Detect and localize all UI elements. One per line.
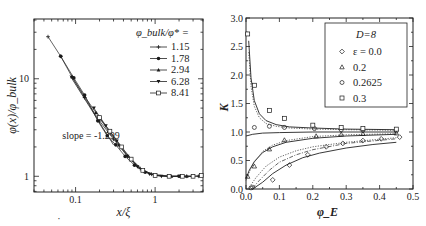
series-line xyxy=(94,108,193,176)
open-triangle-marker-icon xyxy=(314,134,318,138)
open-square-marker-icon xyxy=(394,127,398,131)
x-tick-label: 0.4 xyxy=(373,191,386,202)
legend-title: φ_bulk/φ* = xyxy=(136,27,189,38)
legend-label: 1.15 xyxy=(171,41,189,52)
open-square-marker-icon xyxy=(129,157,133,161)
legend-label: 0.3 xyxy=(353,93,366,104)
legend-label: 0.2625 xyxy=(353,77,382,88)
legend-label: 2.94 xyxy=(171,64,190,75)
x-tick-label: 0.3 xyxy=(340,191,353,202)
x-tick-label: 0.1 xyxy=(273,191,286,202)
legend-label: 1.78 xyxy=(171,53,189,64)
y-tick-label: 2.0 xyxy=(231,70,244,81)
fit-curve xyxy=(253,142,397,189)
open-square-marker-icon xyxy=(180,174,184,178)
y-axis-title: φ(x)/φ_bulk xyxy=(5,77,19,134)
y-axis-title: K xyxy=(217,103,231,113)
x-axis-title: φ_E xyxy=(317,205,338,219)
open-circle-marker-icon xyxy=(252,125,256,129)
y-tick-label: 0.5 xyxy=(231,155,244,166)
y-tick-label: 2.5 xyxy=(231,41,244,52)
y-tick-label: 3.0 xyxy=(231,13,244,24)
legend: D=8ε = 0.00.20.26250.3 xyxy=(325,23,407,107)
fit-curve xyxy=(249,138,396,188)
y-tick-label: 0.0 xyxy=(231,184,244,195)
open-square-marker-icon xyxy=(167,174,171,178)
filled-circle-marker-icon xyxy=(114,143,118,147)
open-square-marker-icon xyxy=(267,108,271,112)
fit-curve xyxy=(246,134,396,181)
open-square-marker-icon xyxy=(157,91,161,95)
right-chart-k-vs-phi-e: 0.00.10.20.30.40.50.00.51.01.52.02.53.0φ… xyxy=(217,13,419,220)
open-square-marker-icon xyxy=(246,32,250,36)
legend-label: ε = 0.0 xyxy=(353,46,382,57)
legend-label: 0.2 xyxy=(353,62,366,73)
open-square-marker-icon xyxy=(282,116,286,120)
plus-marker-icon xyxy=(157,45,161,49)
open-square-marker-icon xyxy=(141,168,145,172)
open-square-marker-icon xyxy=(120,145,124,149)
filled-circle-marker-icon xyxy=(105,134,109,138)
legend-title: D=8 xyxy=(355,29,377,40)
data-series-0.2625 xyxy=(249,124,398,190)
y-tick-label: 1.5 xyxy=(231,98,244,109)
data-series-8.41 xyxy=(98,116,204,179)
open-square-marker-icon xyxy=(311,123,315,127)
open-square-marker-icon xyxy=(98,116,102,120)
open-diamond-marker-icon xyxy=(270,177,275,182)
open-square-marker-icon xyxy=(339,125,343,129)
x-axis-title: x/ξ xyxy=(116,205,132,219)
figure: 0.11110x/ξφ(x)/φ_bulkslope = -1.299φ_bul… xyxy=(0,0,426,226)
legend: φ_bulk/φ* =1.151.782.946.288.41 xyxy=(136,27,190,98)
plus-marker-icon xyxy=(46,35,50,39)
left-chart-loglog-profile: 0.11110x/ξφ(x)/φ_bulkslope = -1.299φ_bul… xyxy=(5,19,203,224)
y-tick-label: 1 xyxy=(24,171,29,182)
filled-circle-marker-icon xyxy=(157,57,161,61)
open-square-marker-icon xyxy=(191,174,195,178)
x-tick-label: 0.5 xyxy=(407,191,420,202)
stray-mark: · xyxy=(57,213,60,224)
data-series-6.28 xyxy=(92,107,195,179)
y-tick-label: 10 xyxy=(19,73,29,84)
open-square-marker-icon xyxy=(252,83,256,87)
open-square-marker-icon xyxy=(340,96,344,100)
fit-curve xyxy=(246,134,396,178)
open-square-marker-icon xyxy=(108,129,112,133)
open-circle-marker-icon xyxy=(267,124,271,128)
x-tick-label: 0.1 xyxy=(69,194,82,205)
y-tick-label: 1.0 xyxy=(231,127,244,138)
legend-label: 6.28 xyxy=(171,76,189,87)
open-square-marker-icon xyxy=(153,174,157,178)
filled-circle-marker-icon xyxy=(59,54,63,58)
open-square-marker-icon xyxy=(361,127,365,131)
series-line xyxy=(100,118,202,177)
x-tick-label: 1 xyxy=(153,194,158,205)
data-series-ε = 0.0 xyxy=(250,135,402,190)
legend-label: 8.41 xyxy=(171,87,189,98)
open-square-marker-icon xyxy=(199,174,203,178)
x-tick-label: 0.2 xyxy=(307,191,320,202)
open-diamond-marker-icon xyxy=(397,135,402,140)
open-triangle-marker-icon xyxy=(339,132,343,136)
